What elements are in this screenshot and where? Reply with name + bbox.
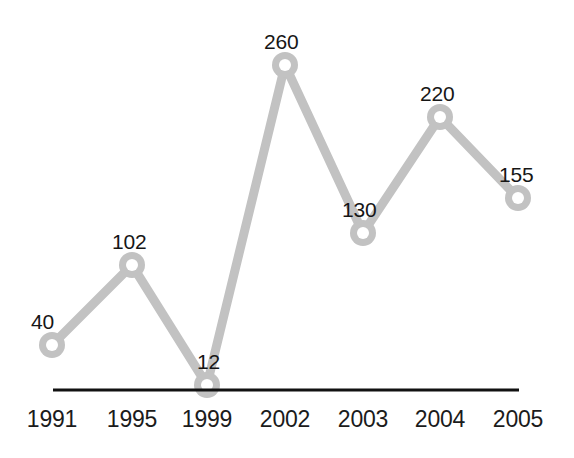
x-axis-tick-label: 2005 xyxy=(493,408,543,431)
data-point-marker xyxy=(350,220,376,246)
marker-hole xyxy=(434,111,446,123)
data-point-value-label: 102 xyxy=(112,231,146,252)
data-point-marker xyxy=(505,185,531,211)
x-axis-tick-label: 1991 xyxy=(27,408,77,431)
data-point-value-label: 12 xyxy=(197,351,220,372)
x-axis-tick-label: 1999 xyxy=(182,408,232,431)
data-point-value-label: 40 xyxy=(31,311,54,332)
data-point-marker xyxy=(427,104,453,130)
data-point-value-label: 260 xyxy=(264,31,298,52)
marker-hole xyxy=(46,339,58,351)
chart-plot-area xyxy=(0,0,574,458)
data-point-marker xyxy=(39,332,65,358)
marker-hole xyxy=(512,192,524,204)
x-axis-tick-label: 2003 xyxy=(338,408,388,431)
marker-hole xyxy=(357,227,369,239)
data-point-marker xyxy=(272,52,298,78)
marker-hole xyxy=(279,59,291,71)
data-point-value-label: 155 xyxy=(499,164,533,185)
marker-hole xyxy=(126,259,138,271)
data-point-markers xyxy=(39,52,531,398)
data-point-marker xyxy=(119,252,145,278)
x-axis-tick-label: 2004 xyxy=(415,408,465,431)
x-axis-tick-label: 2002 xyxy=(260,408,310,431)
data-point-value-label: 220 xyxy=(420,83,454,104)
data-point-marker xyxy=(194,372,220,398)
x-axis-tick-label: 1995 xyxy=(107,408,157,431)
data-point-value-label: 130 xyxy=(342,199,376,220)
line-chart: 4010212260130220155 19911995199920022003… xyxy=(0,0,574,458)
